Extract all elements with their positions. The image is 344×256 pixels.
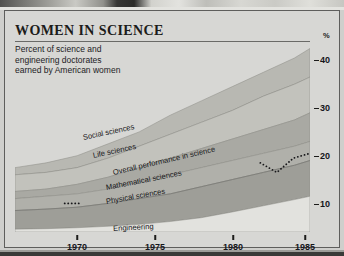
x-tick-mark-1975 bbox=[154, 235, 156, 240]
x-tick-mark-1970 bbox=[76, 235, 78, 240]
plot-area bbox=[15, 27, 310, 232]
y-tick-dash bbox=[314, 108, 319, 110]
x-tick-mark-1985 bbox=[304, 235, 306, 240]
y-tick-label: 10 bbox=[320, 199, 330, 209]
y-tick-dash bbox=[314, 156, 319, 158]
y-tick-dash bbox=[314, 204, 319, 206]
y-axis: % 40302010 bbox=[311, 27, 344, 232]
percent-symbol: % bbox=[323, 31, 330, 40]
y-tick-dash bbox=[314, 60, 319, 62]
bottom-rule-dark bbox=[0, 252, 344, 256]
y-tick-label: 30 bbox=[320, 103, 330, 113]
x-tick-mark-1980 bbox=[232, 235, 234, 240]
y-tick-20: 20 bbox=[314, 151, 330, 161]
chart-panel: WOMEN IN SCIENCE Percent of science and … bbox=[4, 10, 340, 248]
scan-artifact-strip bbox=[0, 0, 344, 7]
chart-screenshot: WOMEN IN SCIENCE Percent of science and … bbox=[0, 0, 344, 256]
y-tick-40: 40 bbox=[314, 55, 330, 65]
y-tick-30: 30 bbox=[314, 103, 330, 113]
y-tick-label: 40 bbox=[320, 55, 330, 65]
y-tick-label: 20 bbox=[320, 151, 330, 161]
y-tick-10: 10 bbox=[314, 199, 330, 209]
stacked-area-svg bbox=[15, 27, 310, 232]
